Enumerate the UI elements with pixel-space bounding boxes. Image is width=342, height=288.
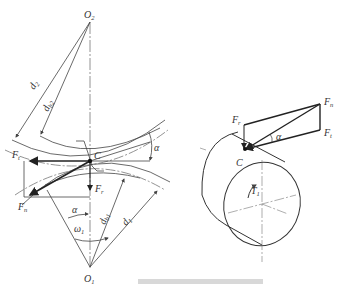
figure-caption-faded	[138, 279, 263, 284]
label-O2: O2	[84, 9, 95, 21]
label-Ft: Ft	[11, 149, 20, 161]
label-omega1: ω1	[74, 223, 84, 235]
label-Fr: Fr	[94, 183, 104, 195]
left-mesh-diagram	[5, 22, 170, 268]
label-T1: T1	[251, 185, 260, 197]
label-C: C	[94, 150, 101, 161]
label-alpha-top: α	[154, 142, 160, 153]
label-Fn-right: Fn	[323, 96, 333, 108]
label-Fn: Fn	[17, 201, 27, 213]
label-db1: db1	[97, 211, 112, 226]
label-alpha-bottom: α	[72, 204, 78, 215]
label-C-right: C	[236, 157, 243, 168]
label-Fr-right: Fr	[231, 114, 241, 126]
label-d2: d2	[26, 78, 41, 92]
right-force-vectors	[244, 104, 320, 149]
label-alpha-right: α	[276, 131, 282, 142]
pitch-point-dot	[88, 159, 92, 163]
label-Ft-right: Ft	[323, 127, 332, 139]
contact-point-dot	[243, 147, 247, 151]
label-O1: O1	[84, 273, 94, 285]
gear-force-diagram: O2 O1 C d2 db2 db1 d1 Ft Fr Fn α α ω1 Fr…	[0, 0, 342, 288]
label-db2: db2	[40, 97, 56, 113]
label-d1: d1	[119, 214, 133, 228]
right-gear-cylinder	[200, 132, 310, 262]
left-force-vectors	[30, 161, 90, 195]
